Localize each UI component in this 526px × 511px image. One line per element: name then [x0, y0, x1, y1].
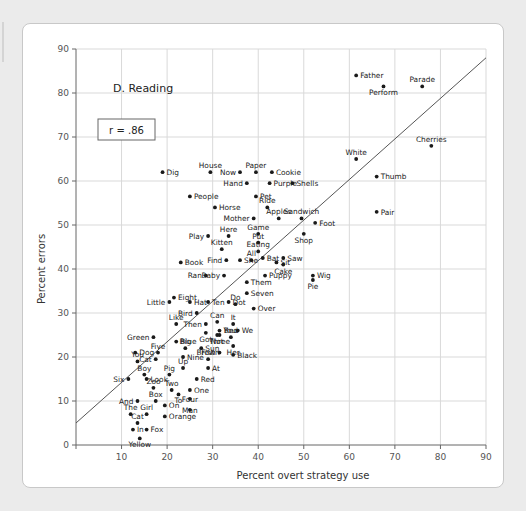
point-marker	[195, 311, 199, 315]
point-label: Cherries	[416, 135, 447, 144]
point-marker	[188, 388, 192, 392]
point-label: Big	[179, 337, 191, 346]
data-point: Fox	[145, 425, 164, 434]
point-marker	[179, 261, 183, 265]
point-label: Red	[201, 375, 215, 384]
y-tick-label: 30	[58, 308, 70, 318]
point-marker	[429, 144, 433, 148]
data-point: People	[188, 192, 219, 201]
point-marker	[172, 296, 176, 300]
data-points: FatherPerformParadeCherriesWhiteThumbPai…	[113, 71, 447, 449]
point-marker	[420, 85, 424, 89]
point-label: Fox	[151, 425, 164, 434]
point-label: The	[123, 403, 138, 412]
point-marker	[227, 300, 231, 304]
data-point: Horse	[213, 203, 241, 212]
data-point: Mother	[224, 214, 256, 223]
point-marker	[126, 377, 130, 381]
point-label: Up	[178, 357, 188, 366]
data-point: Six	[113, 375, 130, 384]
point-label: Baby	[201, 271, 220, 280]
point-marker	[208, 170, 212, 174]
point-marker	[161, 170, 165, 174]
y-axis-title: Percent errors	[36, 234, 47, 304]
point-label: White	[345, 148, 367, 157]
point-label: Four	[182, 395, 199, 404]
point-label: Mother	[224, 214, 251, 223]
point-label: Can	[210, 311, 225, 320]
point-marker	[268, 181, 272, 185]
point-label: Parade	[409, 75, 435, 84]
point-marker	[218, 329, 222, 333]
data-point: Hand	[223, 179, 248, 188]
y-tick-label: 40	[58, 264, 70, 274]
point-marker	[154, 399, 158, 403]
point-marker	[249, 258, 253, 262]
data-point: Dig	[161, 168, 180, 177]
point-marker	[231, 353, 235, 357]
data-point: Perform	[369, 85, 398, 98]
point-marker	[145, 412, 149, 416]
point-label: Zoo	[146, 377, 161, 386]
chart-card: 0102030405060708090102030405060708090 Fa…	[22, 23, 504, 488]
point-marker	[300, 217, 304, 221]
data-point: At	[206, 364, 220, 373]
point-label: Dig	[167, 168, 180, 177]
data-point: Big	[179, 337, 191, 350]
data-point: Kitten	[211, 238, 233, 251]
data-point: Foot	[313, 219, 335, 228]
axes	[72, 49, 486, 449]
point-label: All	[247, 249, 256, 258]
point-marker	[167, 373, 171, 377]
data-point: Orange	[163, 412, 197, 421]
point-marker	[163, 415, 167, 419]
point-label: Shop	[294, 236, 313, 245]
point-marker	[170, 388, 174, 392]
correlation-value: r = .86	[109, 125, 144, 136]
point-marker	[252, 217, 256, 221]
point-label: Play	[189, 232, 205, 241]
point-marker	[206, 357, 210, 361]
data-point: Father	[354, 71, 384, 80]
point-marker	[375, 175, 379, 179]
point-label: Ten	[211, 298, 225, 307]
point-label: Wig	[317, 271, 331, 280]
point-label: Puppy	[269, 271, 292, 280]
y-tick-label: 50	[58, 220, 70, 230]
point-label: People	[194, 192, 219, 201]
point-label: Here	[220, 225, 238, 234]
point-marker	[206, 366, 210, 370]
point-marker	[220, 247, 224, 251]
panel-title: D. Reading	[113, 82, 173, 95]
point-label: Father	[360, 71, 384, 80]
point-label: Little	[147, 298, 166, 307]
point-label: Find	[207, 256, 222, 265]
point-marker	[154, 357, 158, 361]
point-label: Pig	[164, 364, 175, 373]
point-marker	[131, 428, 135, 432]
point-marker	[229, 335, 233, 339]
point-marker	[183, 346, 187, 350]
point-marker	[145, 428, 149, 432]
point-marker	[270, 170, 274, 174]
data-point: Seven	[245, 289, 274, 298]
data-point: Book	[179, 258, 204, 267]
point-label: We	[242, 326, 254, 335]
data-point: Shop	[294, 232, 313, 245]
point-label: Hat	[194, 298, 207, 307]
point-label: Foot	[319, 219, 335, 228]
point-marker	[206, 234, 210, 238]
data-point: Cookie	[270, 168, 301, 177]
data-point: House	[199, 161, 223, 174]
point-marker	[152, 335, 156, 339]
point-marker	[238, 258, 242, 262]
point-label: Six	[113, 375, 125, 384]
data-point: Paper	[245, 161, 267, 174]
data-point: Four	[182, 395, 199, 404]
point-label: Cookie	[276, 168, 302, 177]
point-label: Two	[164, 379, 179, 388]
point-marker	[174, 322, 178, 326]
x-tick-label: 30	[207, 452, 219, 462]
point-label: Sandwich	[284, 207, 320, 216]
point-label: Pair	[381, 208, 396, 217]
